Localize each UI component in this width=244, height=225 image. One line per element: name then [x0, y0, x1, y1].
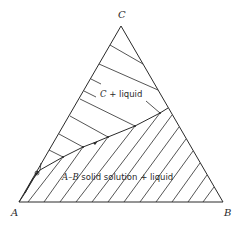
- vertex-label-a: A: [10, 207, 18, 218]
- region-label-ab-solid-solution-liquid: A–B solid solution + liquid: [61, 172, 173, 182]
- upper-tie-lines: [40, 45, 160, 170]
- region-label-c-liquid: C + liquid: [100, 89, 142, 99]
- lower-tie-lines: [28, 113, 214, 202]
- vertex-label-b: B: [223, 207, 231, 218]
- boundary-curve: [19, 108, 168, 202]
- vertex-label-c: C: [118, 9, 126, 20]
- arrow-icon: [93, 141, 98, 145]
- ternary-diagram: C A B C + liquid A–B solid solution + li…: [0, 0, 244, 225]
